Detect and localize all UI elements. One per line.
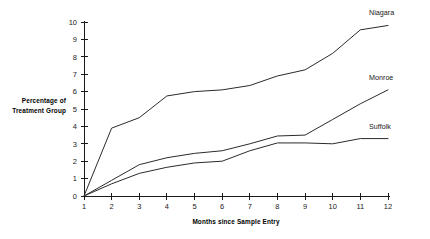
x-tick-label: 3 — [137, 202, 141, 211]
x-tick-label: 2 — [110, 202, 114, 211]
x-tick-label: 1 — [82, 202, 86, 211]
y-tick-label: 9 — [73, 35, 77, 44]
x-tick-label: 12 — [384, 202, 392, 211]
x-axis-title: Months since Sample Entry — [192, 218, 279, 226]
y-axis-title-line1: Percentage of — [22, 97, 67, 105]
y-tick-label: 0 — [73, 192, 77, 201]
y-axis-ticks: 012345678910 — [69, 18, 88, 201]
y-tick-label: 1 — [73, 174, 77, 183]
y-tick-label: 5 — [73, 105, 77, 114]
x-tick-label: 4 — [165, 202, 169, 211]
series-label-suffolk: Suffolk — [369, 122, 391, 131]
y-tick-label: 3 — [73, 140, 77, 149]
y-tick-label: 7 — [73, 70, 77, 79]
chart-figure: 012345678910 123456789101112 NiagaraMonr… — [0, 0, 430, 239]
x-tick-label: 11 — [356, 202, 364, 211]
y-axis-title-line2: Treatment Group — [12, 107, 66, 115]
y-tick-label: 10 — [69, 18, 77, 27]
x-axis-ticks: 123456789101112 — [82, 193, 392, 212]
x-tick-label: 9 — [303, 202, 307, 211]
line-chart: 012345678910 123456789101112 NiagaraMonr… — [0, 0, 430, 239]
x-tick-label: 10 — [329, 202, 337, 211]
series-label-monroe: Monroe — [369, 73, 393, 82]
x-tick-label: 6 — [220, 202, 224, 211]
y-tick-label: 8 — [73, 53, 77, 62]
series-lines — [84, 25, 388, 196]
y-tick-label: 4 — [73, 122, 77, 131]
x-tick-label: 7 — [248, 202, 252, 211]
y-tick-label: 6 — [73, 87, 77, 96]
x-tick-label: 8 — [275, 202, 279, 211]
x-tick-label: 5 — [192, 202, 196, 211]
y-tick-label: 2 — [73, 157, 77, 166]
series-line-monroe — [84, 90, 388, 196]
series-label-niagara: Niagara — [369, 8, 394, 17]
